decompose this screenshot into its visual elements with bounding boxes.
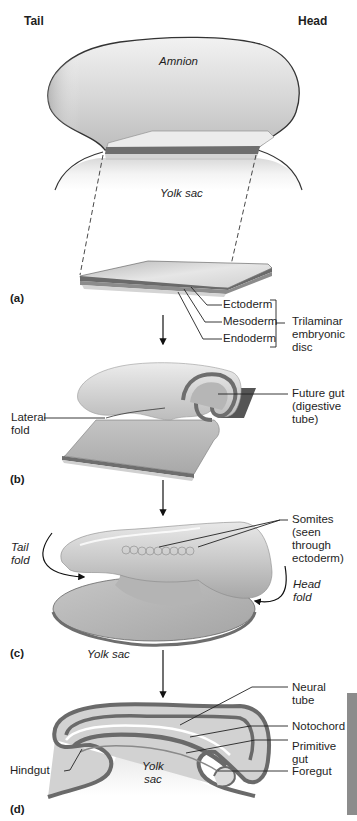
panel-b-folding (62, 363, 256, 481)
amnion-label: Amnion (159, 55, 198, 68)
somites-label: Somites (seen through ectoderm) (292, 513, 344, 565)
future-gut-line-2: (digestive (292, 400, 344, 413)
head-fold-label: Head fold (293, 578, 321, 604)
panel-a-amnion-yolk (48, 37, 302, 287)
ectoderm-label: Ectoderm (223, 298, 272, 311)
panel-label-a: (a) (10, 292, 24, 304)
primitive-gut-label: Primitive gut (292, 740, 336, 766)
somites-line-2: (seen (292, 526, 344, 539)
somites-line-1: Somites (292, 513, 344, 526)
future-gut-line-3: tube) (292, 413, 344, 426)
head-fold-line-2: fold (293, 591, 321, 604)
head-orientation-label: Head (298, 15, 327, 28)
tail-orientation-label: Tail (24, 15, 44, 28)
head-fold-line-1: Head (293, 578, 321, 591)
panel-label-c: (c) (10, 647, 24, 659)
neural-tube-line-2: tube (292, 694, 326, 707)
lateral-fold-label: Lateral fold (11, 411, 46, 437)
hindgut-label: Hindgut (10, 764, 50, 777)
yolk-sac-d-line-1: Yolk (142, 760, 164, 773)
tail-fold-line-1: Tail (11, 541, 30, 554)
tail-fold-label: Tail fold (11, 541, 30, 567)
yolk-sac-label-d: Yolk sac (142, 760, 164, 786)
notochord-label: Notochord (292, 720, 345, 733)
trilaminar-line-3: disc (292, 341, 345, 354)
mesoderm-label: Mesoderm (223, 315, 277, 328)
trilaminar-label: Trilaminar embryonic disc (292, 315, 345, 354)
panel-label-d: (d) (10, 803, 25, 815)
future-gut-line-1: Future gut (292, 387, 344, 400)
somites-line-4: ectoderm) (292, 552, 344, 565)
yolk-sac-d-line-2: sac (142, 773, 164, 786)
neural-tube-line-1: Neural (292, 681, 326, 694)
somites-line-3: through (292, 539, 344, 552)
primitive-gut-line-1: Primitive (292, 740, 336, 753)
yolk-sac-label-c: Yolk sac (87, 648, 130, 661)
endoderm-label: Endoderm (223, 332, 276, 345)
yolk-sac-label-a: Yolk sac (160, 187, 203, 200)
trilaminar-disc (80, 261, 272, 297)
panel-c-embryo (53, 522, 272, 645)
lateral-fold-line-2: fold (11, 424, 46, 437)
neural-tube-label: Neural tube (292, 681, 326, 707)
tail-fold-line-2: fold (11, 554, 30, 567)
trilaminar-line-2: embryonic (292, 328, 345, 341)
page-side-tab (347, 693, 357, 815)
lateral-fold-line-1: Lateral (11, 411, 46, 424)
future-gut-label: Future gut (digestive tube) (292, 387, 344, 426)
panel-label-b: (b) (10, 473, 25, 485)
foregut-label: Foregut (292, 765, 332, 778)
trilaminar-line-1: Trilaminar (292, 315, 345, 328)
